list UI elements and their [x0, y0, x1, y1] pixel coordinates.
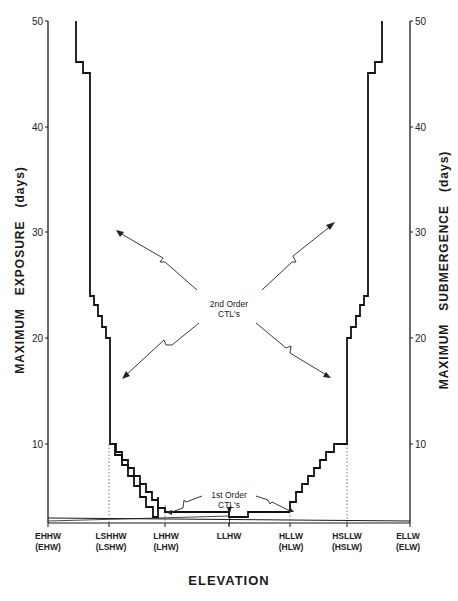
left-tick-30: 30 [32, 227, 44, 238]
right-tick-30: 30 [415, 227, 427, 238]
submergence-staircase [290, 21, 382, 512]
exposure-staircase-lower [110, 444, 290, 517]
x-label-ellw: ELLW [396, 531, 421, 541]
left-axis-title: MAXIMUM EXPOSURE (days) [13, 166, 27, 374]
right-tick-10: 10 [415, 439, 427, 450]
right-tick-40: 40 [415, 122, 427, 133]
x-label-elw: (ELW) [396, 542, 420, 552]
left-tick-50: 50 [32, 16, 44, 27]
second-order-label-line1: 2nd Order [210, 299, 248, 309]
left-tick-20: 20 [32, 333, 44, 344]
second-order-label-line2: CTL's [218, 309, 240, 319]
right-tick-50: 50 [415, 16, 427, 27]
left-tick-40: 40 [32, 122, 44, 133]
first-order-label-line2: CTL's [218, 500, 240, 510]
right-tick-20: 20 [415, 333, 427, 344]
x-label-ehw: (EHW) [35, 542, 61, 552]
x-label-hslw: (HSLW) [332, 542, 362, 552]
ctl-chart: 50 40 30 20 10 50 40 30 20 10 MAXIMUM EX… [0, 0, 458, 601]
first-order-label-line1: 1st Order [211, 490, 247, 500]
x-label-hlw: (HLW) [279, 542, 304, 552]
x-label-ehhw: EHHW [35, 531, 62, 541]
x-label-hsllw: HSLLW [332, 531, 363, 541]
x-label-lhhw: LHHW [153, 531, 179, 541]
left-tick-10: 10 [32, 439, 44, 450]
x-label-lhw: (LHW) [153, 542, 178, 552]
x-axis-title: ELEVATION [188, 573, 269, 588]
x-label-llhw: LLHW [217, 531, 243, 541]
x-label-lshhw: LSHHW [95, 531, 127, 541]
x-label-hllw: HLLW [279, 531, 304, 541]
exposure-staircase [76, 21, 158, 517]
x-label-lshw: (LSHW) [96, 542, 127, 552]
right-axis-title: MAXIMUM SUBMERGENCE (days) [437, 151, 451, 390]
